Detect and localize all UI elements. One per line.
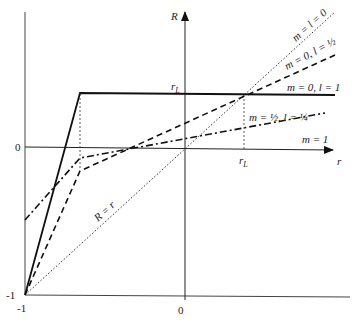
label-m0-l1: m = 0, l = 1 <box>287 81 340 93</box>
rL-x-label: rL <box>239 154 248 169</box>
curve-R-equals-r <box>25 12 335 295</box>
bottom-axis-line <box>25 295 350 297</box>
label-m0-lhalf: m = 0, l = ½ <box>282 35 337 72</box>
rL-y-label: rL <box>171 80 180 95</box>
curve-m0-l1 <box>25 93 335 295</box>
label-m-l-0: m = l = 0 <box>289 6 329 44</box>
x-axis <box>25 147 333 150</box>
x-axis-label: r <box>337 155 342 167</box>
y-axis-label: R <box>170 10 178 22</box>
x-zero-label: 0 <box>178 304 184 316</box>
y-min-label: -1 <box>6 289 15 301</box>
label-m1: m = 1 <box>302 133 328 145</box>
y-zero-label: 0 <box>15 141 21 153</box>
diagram: R r 0 0 -1 -1 rL rL m = l = 0 m = 0, l =… <box>0 0 355 321</box>
label-R-eq-r: R = r <box>91 198 118 224</box>
x-min-label: -1 <box>17 302 26 314</box>
label-mhalf-lquarter: m = ½, l = ¼ <box>249 111 308 123</box>
